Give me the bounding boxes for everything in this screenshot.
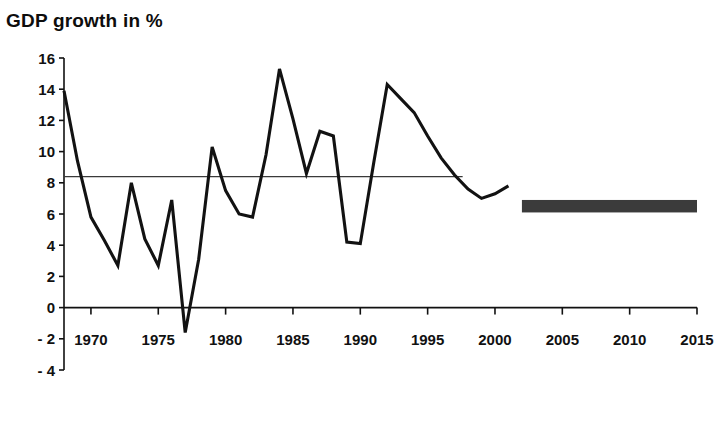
x-axis-tick-label: 1970	[74, 331, 107, 348]
y-axis-tick-label: 2	[47, 268, 55, 285]
forecast-band-bar	[522, 200, 697, 212]
x-axis-tick-label: 2000	[478, 331, 511, 348]
y-axis-tick-label: 10	[38, 143, 55, 160]
x-axis-tick-label: 1980	[209, 331, 242, 348]
chart-canvas: - 4- 20246810121416 19701975198019851990…	[0, 0, 721, 424]
x-axis-tick-label: 2005	[546, 331, 579, 348]
y-axis-tick-group: - 4- 20246810121416	[37, 50, 64, 379]
y-axis-tick-label: 14	[38, 81, 55, 98]
y-axis-tick-label: 8	[47, 174, 55, 191]
y-axis-tick-label: 6	[47, 206, 55, 223]
y-axis-tick-label: 4	[47, 237, 56, 254]
x-axis-tick-group: 1970197519801985199019952000200520102015	[74, 308, 713, 348]
y-axis-tick-label: 16	[38, 50, 55, 67]
x-axis-tick-label: 1975	[142, 331, 175, 348]
x-axis-tick-label: 2010	[613, 331, 646, 348]
x-axis-tick-label: 1995	[411, 331, 444, 348]
y-axis-tick-label: 0	[47, 299, 55, 316]
x-axis-tick-label: 2015	[680, 331, 713, 348]
y-axis-tick-label: - 4	[37, 362, 55, 379]
y-axis-tick-label: 12	[38, 112, 55, 129]
x-axis-tick-label: 1985	[276, 331, 309, 348]
gdp-growth-series-line	[64, 69, 508, 333]
y-axis-tick-label: - 2	[37, 330, 55, 347]
gdp-growth-chart: GDP growth in % - 4- 20246810121416 1970…	[0, 0, 721, 424]
x-axis-tick-label: 1990	[344, 331, 377, 348]
